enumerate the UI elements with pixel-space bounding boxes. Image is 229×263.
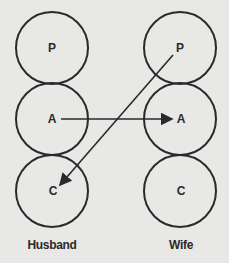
husband-child-label: C [49, 184, 58, 198]
wife-child-label: C [177, 184, 186, 198]
husband-column-label: Husband [27, 238, 76, 252]
wife-parent-label: P [176, 41, 184, 55]
transactional-diagram: P A C P A C Husband Wife [0, 0, 229, 263]
diagram-graphics [0, 0, 229, 263]
wife-adult-label: A [177, 112, 186, 126]
wife-column-label: Wife [169, 238, 193, 252]
husband-adult-label: A [48, 112, 57, 126]
husband-parent-label: P [48, 41, 56, 55]
